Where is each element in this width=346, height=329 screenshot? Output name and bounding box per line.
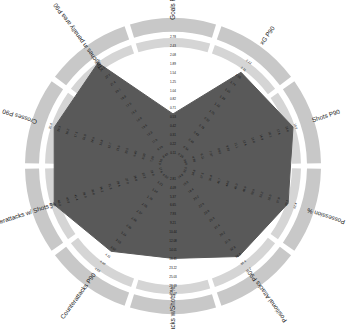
tick-label: 10.44	[169, 230, 177, 234]
tick-label: 1.54	[170, 71, 176, 75]
tick-label: 0.71	[170, 106, 176, 110]
tick-label: 0.31	[170, 133, 176, 137]
tick-label: 2.43	[170, 44, 176, 48]
tick-label: 1.04	[170, 89, 176, 93]
radar-chart: 2.782.432.081.891.541.251.040.820.710.53…	[0, 0, 346, 329]
tick-label: 0.53	[170, 115, 176, 119]
axis-label: Goals P90	[169, 0, 176, 20]
tick-label: 16.41	[169, 257, 177, 261]
tick-label: 0.22	[170, 142, 176, 146]
tick-label: 2.81	[170, 177, 176, 181]
tick-label: 12.08	[169, 239, 177, 243]
tick-label: 23.22	[169, 266, 177, 270]
tick-label: 1.25	[170, 80, 176, 84]
tick-label: 1.89	[170, 62, 176, 66]
tick-label: 6.65	[170, 203, 176, 207]
tick-label: 2.08	[170, 53, 176, 57]
tick-label: 7.93	[170, 212, 176, 216]
tick-label: 2.78	[170, 35, 176, 39]
tick-label: 4.09	[170, 186, 176, 190]
tick-label: 14.01	[169, 248, 177, 252]
axis-label: Positional Attacks w/Shots %	[169, 286, 176, 329]
tick-label: 5.37	[170, 195, 176, 199]
radar-chart-canvas: 2.782.432.081.891.541.251.040.820.710.53…	[0, 0, 346, 329]
tick-label: 25.03	[169, 275, 177, 279]
tick-label: 9.21	[170, 221, 176, 225]
tick-label: 0.82	[170, 97, 176, 101]
tick-label: 0.42	[170, 124, 176, 128]
tick-label: 0.11	[170, 151, 176, 155]
